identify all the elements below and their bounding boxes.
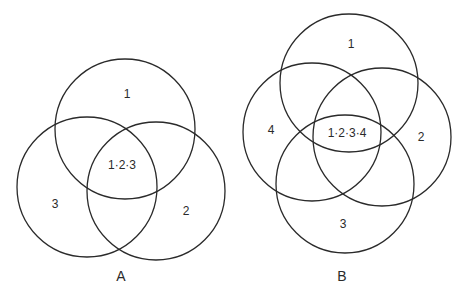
venn-diagram-a: 1 2 3 1·2·3 A — [17, 59, 225, 284]
label-b-intersection: 1·2·3·4 — [328, 126, 367, 140]
label-a-set3: 3 — [52, 197, 59, 211]
label-a-intersection: 1·2·3 — [108, 158, 136, 172]
label-b-set4: 4 — [268, 123, 275, 137]
label-a-set2: 2 — [183, 204, 190, 218]
caption-a: A — [116, 268, 126, 284]
venn-diagrams-canvas: 1 2 3 1·2·3 A 1 2 3 4 1·2·3·4 B — [0, 0, 468, 298]
caption-b: B — [337, 268, 346, 284]
venn-diagram-b: 1 2 3 4 1·2·3·4 B — [243, 14, 451, 284]
circle-a-2 — [87, 122, 225, 260]
label-b-set1: 1 — [348, 37, 355, 51]
label-a-set1: 1 — [124, 87, 131, 101]
label-b-set3: 3 — [340, 217, 347, 231]
label-b-set2: 2 — [418, 130, 425, 144]
